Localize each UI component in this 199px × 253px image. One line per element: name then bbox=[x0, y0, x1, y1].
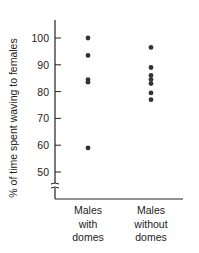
data-point bbox=[149, 97, 154, 102]
data-point bbox=[149, 81, 154, 86]
data-points bbox=[86, 36, 154, 151]
y-axis-label: % of time spent waving to females bbox=[7, 38, 19, 197]
y-axis: 5060708090100 bbox=[31, 20, 61, 199]
data-point bbox=[86, 36, 91, 41]
y-tick-label: 50 bbox=[37, 166, 49, 178]
category-label: Males bbox=[74, 204, 102, 216]
data-point bbox=[86, 80, 91, 85]
y-tick-label: 80 bbox=[37, 86, 49, 98]
y-tick-label: 60 bbox=[37, 139, 49, 151]
data-point bbox=[86, 53, 91, 58]
data-point bbox=[149, 45, 154, 50]
data-point bbox=[149, 65, 154, 70]
category-label: with bbox=[78, 218, 98, 230]
y-tick-label: 100 bbox=[31, 32, 49, 44]
category-label: domes bbox=[135, 231, 167, 243]
category-labels: MaleswithdomesMaleswithoutdomes bbox=[72, 204, 167, 243]
data-point bbox=[86, 145, 91, 150]
y-tick-label: 90 bbox=[37, 59, 49, 71]
data-point bbox=[149, 91, 154, 96]
category-label: without bbox=[133, 218, 167, 230]
axis-break-icon bbox=[51, 183, 59, 188]
y-tick-label: 70 bbox=[37, 112, 49, 124]
scatter-chart: 5060708090100 MaleswithdomesMaleswithout… bbox=[0, 0, 199, 253]
category-label: domes bbox=[72, 231, 104, 243]
category-label: Males bbox=[137, 204, 165, 216]
